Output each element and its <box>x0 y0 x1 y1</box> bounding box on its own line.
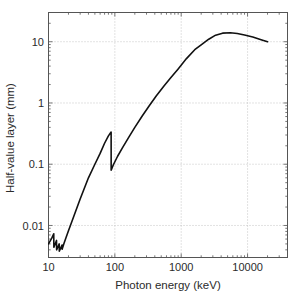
y-axis-title: Half-value layer (mm) <box>4 83 16 193</box>
y-tick-label: 0.1 <box>29 158 44 170</box>
x-tick-label: 1000 <box>169 261 193 273</box>
x-tick-label: 100 <box>106 261 124 273</box>
half-value-layer-plot: 10100100010000 0.010.1110 Photon energy … <box>0 0 298 301</box>
x-tick-label: 10 <box>42 261 54 273</box>
x-tick-label: 10000 <box>232 261 263 273</box>
x-axis-title: Photon energy (keV) <box>115 279 221 291</box>
y-tick-label: 0.01 <box>23 220 44 232</box>
y-tick-label: 1 <box>38 97 44 109</box>
chart-figure: 10100100010000 0.010.1110 Photon energy … <box>0 0 298 301</box>
figure-background <box>0 0 298 301</box>
y-tick-label: 10 <box>32 36 44 48</box>
